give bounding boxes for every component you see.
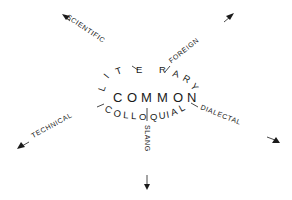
ray-technical: TECHNICAL bbox=[17, 111, 73, 149]
arc-letter: L bbox=[177, 102, 187, 114]
arc-letter: T bbox=[114, 64, 123, 76]
center-letter: N bbox=[187, 90, 196, 105]
arc-letter: A bbox=[171, 67, 181, 79]
ray-label-slang: SLANG bbox=[144, 125, 151, 152]
arrow-down-left-icon bbox=[17, 142, 25, 149]
arc-letter: O bbox=[113, 107, 123, 119]
ray-dialectal: DIALECTAL bbox=[200, 103, 280, 143]
upper-arc-literary: L I T E R A R Y bbox=[96, 64, 202, 93]
ray-label-foreign: FOREIGN bbox=[167, 36, 200, 64]
center-letter: M bbox=[141, 90, 152, 105]
arc-letter: L bbox=[131, 110, 137, 121]
ray-label-dialectal: DIALECTAL bbox=[200, 103, 243, 125]
arc-letter: R bbox=[159, 64, 166, 75]
center-letter: O bbox=[127, 90, 137, 105]
center-word-common: C O M M O N bbox=[113, 90, 196, 105]
ray-scientific: SCIENTIFIC bbox=[62, 13, 107, 44]
arrow-down-right-icon bbox=[272, 137, 280, 143]
ray-label-scientific: SCIENTIFIC bbox=[65, 13, 106, 44]
vocabulary-diagram: C O M M O N L I T E R A R Y C O L L O Q … bbox=[0, 0, 292, 200]
center-letter: C bbox=[113, 90, 122, 105]
ray-slang: SLANG bbox=[144, 125, 151, 190]
arc-letter: L bbox=[96, 84, 108, 93]
arc-letter: R bbox=[181, 72, 193, 85]
center-letter: M bbox=[157, 90, 168, 105]
arc-letter: Q bbox=[150, 111, 157, 122]
ray-label-technical: TECHNICAL bbox=[30, 111, 73, 139]
arrow-down-icon bbox=[144, 184, 150, 190]
arc-letter: L bbox=[123, 109, 129, 120]
ray-foreign: FOREIGN bbox=[167, 13, 234, 64]
arc-letter: I bbox=[101, 71, 111, 80]
arc-letter: O bbox=[139, 111, 146, 122]
